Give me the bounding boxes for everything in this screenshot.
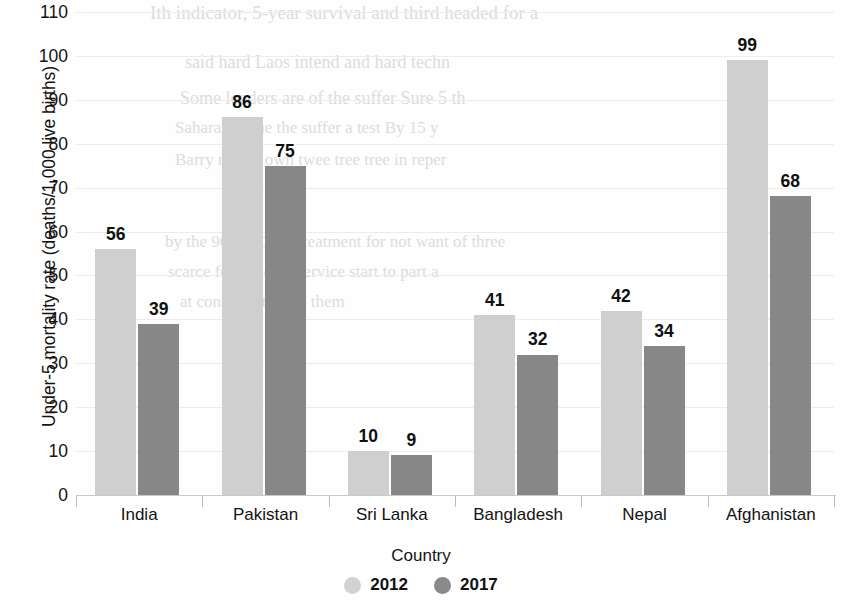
bar-value-label: 68 <box>770 171 811 192</box>
y-axis-tick-labels: 0102030405060708090100110 <box>22 0 68 607</box>
bar-value-label: 39 <box>138 299 179 320</box>
bar <box>222 117 263 495</box>
gridline <box>76 319 834 320</box>
bar <box>138 324 179 495</box>
x-axis-categories: IndiaPakistanSri LankaBangladeshNepalAfg… <box>76 496 836 534</box>
x-axis-separator-tick <box>455 496 456 507</box>
legend-swatch-icon <box>434 577 451 594</box>
legend: 20122017 <box>0 575 842 595</box>
plot-area: 56398675109413242349968 <box>76 12 834 495</box>
x-axis-separator-tick <box>708 496 709 507</box>
bar <box>644 346 685 495</box>
bar-value-label: 42 <box>601 286 642 307</box>
bar <box>265 166 306 495</box>
y-axis-tick-label: 50 <box>22 265 68 286</box>
bar <box>601 311 642 495</box>
gridline <box>76 188 834 189</box>
gridline <box>76 100 834 101</box>
y-axis-tick-label: 30 <box>22 353 68 374</box>
gridline <box>76 363 834 364</box>
y-axis-tick-label: 40 <box>22 309 68 330</box>
y-axis-tick-label: 90 <box>22 89 68 110</box>
gridline <box>76 232 834 233</box>
x-axis-category-label: Afghanistan <box>726 505 816 525</box>
bar-value-label: 10 <box>348 426 389 447</box>
y-axis-tick-label: 20 <box>22 397 68 418</box>
x-axis-category-label: Pakistan <box>233 505 298 525</box>
legend-label: 2012 <box>370 575 408 595</box>
x-axis-separator-tick <box>834 496 835 507</box>
bar-value-label: 99 <box>727 35 768 56</box>
bar <box>517 355 558 496</box>
chart-container: Ith indicator, 5-year survival and third… <box>0 0 842 607</box>
y-axis-tick-label: 60 <box>22 221 68 242</box>
bar <box>95 249 136 495</box>
y-axis-tick-label: 0 <box>22 485 68 506</box>
x-axis-category-label: Sri Lanka <box>356 505 428 525</box>
x-axis-category-label: India <box>121 505 158 525</box>
bar-value-label: 9 <box>391 430 432 451</box>
y-axis-tick-label: 100 <box>22 45 68 66</box>
bar <box>474 315 515 495</box>
x-axis-separator-tick <box>202 496 203 507</box>
x-axis-separator-tick <box>76 496 77 507</box>
bar-value-label: 75 <box>265 141 306 162</box>
gridline <box>76 275 834 276</box>
bar <box>770 196 811 495</box>
x-axis-title: Country <box>0 546 842 566</box>
gridline <box>76 451 834 452</box>
legend-swatch-icon <box>344 577 361 594</box>
bar-value-label: 32 <box>517 329 558 350</box>
y-axis-tick-label: 10 <box>22 441 68 462</box>
bar <box>391 455 432 495</box>
legend-label: 2017 <box>460 575 498 595</box>
bar-value-label: 41 <box>474 290 515 311</box>
legend-item: 2017 <box>434 575 498 595</box>
bar <box>727 60 768 495</box>
gridline <box>76 12 834 13</box>
bar <box>348 451 389 495</box>
bar-value-label: 34 <box>644 321 685 342</box>
x-axis-category-label: Nepal <box>622 505 666 525</box>
gridline <box>76 407 834 408</box>
y-axis-tick-label: 80 <box>22 133 68 154</box>
x-axis-separator-tick <box>581 496 582 507</box>
gridline <box>76 56 834 57</box>
bar-value-label: 86 <box>222 92 263 113</box>
y-axis-tick-label: 70 <box>22 177 68 198</box>
bar-value-label: 56 <box>95 224 136 245</box>
y-axis-tick-label: 110 <box>22 2 68 23</box>
legend-item: 2012 <box>344 575 408 595</box>
gridline <box>76 144 834 145</box>
x-axis-category-label: Bangladesh <box>473 505 563 525</box>
x-axis-separator-tick <box>329 496 330 507</box>
